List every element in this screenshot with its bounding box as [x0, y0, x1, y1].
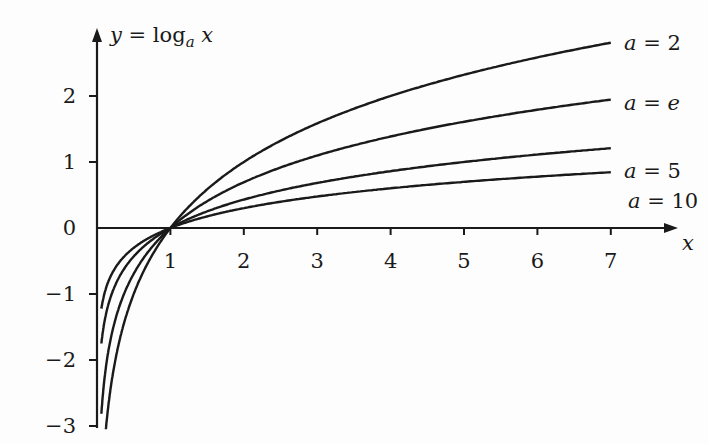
curve-a2	[106, 43, 611, 430]
y-axis-title: y = loga x	[109, 23, 213, 51]
series-label: a = 5	[624, 159, 681, 183]
y-axis-arrow-icon	[92, 28, 102, 42]
y-tick-label: −3	[45, 414, 76, 438]
x-tick-label: 5	[457, 249, 470, 273]
x-axis-title: x	[682, 231, 694, 255]
curve-a10	[101, 172, 610, 308]
chart: 1234567−3−2−1012a = 2a = ea = 5a = 10y =…	[0, 0, 708, 444]
series-label: a = 10	[628, 189, 698, 213]
series-label: a = e	[624, 91, 680, 115]
x-tick-label: 7	[604, 249, 617, 273]
x-tick-label: 6	[531, 249, 544, 273]
x-tick-label: 1	[164, 249, 177, 273]
x-axis-arrow-icon	[664, 223, 678, 233]
x-tick-label: 2	[237, 249, 250, 273]
x-tick-label: 4	[384, 249, 397, 273]
y-tick-label: −1	[45, 282, 76, 306]
series-label: a = 2	[624, 31, 681, 55]
plot-area: 1234567−3−2−1012a = 2a = ea = 5a = 10y =…	[0, 0, 708, 444]
y-tick-label: 2	[63, 84, 76, 108]
x-tick-label: 3	[311, 249, 324, 273]
y-tick-label: 1	[63, 150, 76, 174]
y-tick-label: −2	[45, 348, 76, 372]
y-tick-label: 0	[63, 216, 76, 240]
